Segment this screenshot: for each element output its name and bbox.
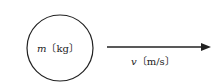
velocity-unit: 〔m/s〕	[137, 56, 175, 67]
mass-unit: 〔kg〕	[46, 43, 78, 54]
velocity-label: v〔m/s〕	[131, 53, 175, 68]
diagram-canvas	[0, 0, 223, 83]
mass-label: m〔kg〕	[37, 40, 79, 55]
arrow-head-icon	[201, 43, 211, 51]
